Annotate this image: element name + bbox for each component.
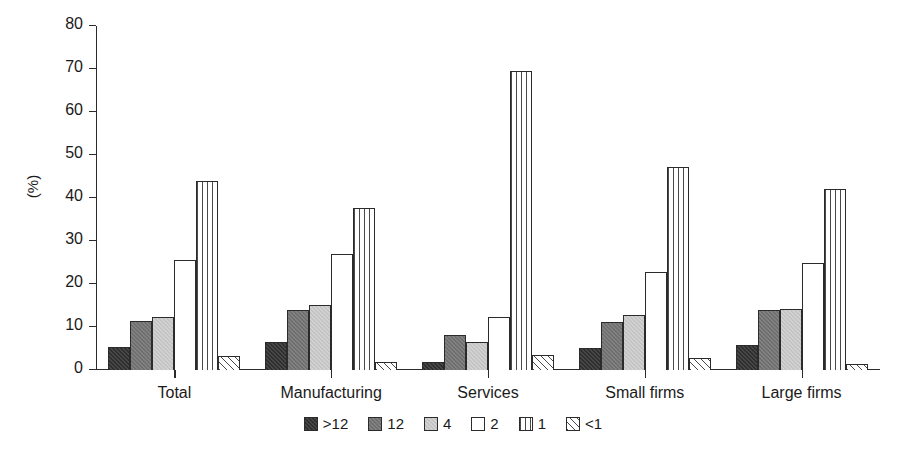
bar-2-manufacturing[interactable]: [331, 254, 353, 370]
bar-set: [410, 26, 567, 370]
x-tick: [331, 370, 332, 378]
y-tick-label: 20: [65, 273, 83, 291]
bar-1-large-firms[interactable]: [846, 364, 868, 370]
bar-1-large-firms[interactable]: [824, 189, 846, 370]
x-tick-label: Services: [410, 384, 567, 402]
bar-1-manufacturing[interactable]: [375, 362, 397, 370]
y-tick: 30: [89, 240, 96, 241]
x-tick-label: Total: [96, 384, 253, 402]
bar-4-services[interactable]: [466, 342, 488, 370]
bar-chart: (%) 01020304050607080 TotalManufacturing…: [0, 0, 906, 462]
legend-label: 12: [387, 415, 404, 432]
bar-set: [96, 26, 253, 370]
y-tick-label: 50: [65, 144, 83, 162]
y-tick: 0: [89, 369, 96, 370]
bar-groups: TotalManufacturingServicesSmall firmsLar…: [96, 26, 880, 370]
legend-swatch-icon: [471, 417, 485, 431]
legend-label: >12: [323, 415, 348, 432]
legend-label: 2: [490, 415, 498, 432]
bar-2-large-firms[interactable]: [802, 263, 824, 371]
bar-4-manufacturing[interactable]: [309, 305, 331, 370]
bar-12-large-firms[interactable]: [758, 310, 780, 370]
legend-item-4[interactable]: 4: [424, 415, 451, 432]
y-tick-label: 30: [65, 230, 83, 248]
x-tick: [488, 370, 489, 378]
bar-12-services[interactable]: [444, 335, 466, 370]
bar-1-small-firms[interactable]: [667, 167, 689, 370]
legend-swatch-icon: [566, 417, 580, 431]
legend-swatch-icon: [368, 417, 382, 431]
bar-group: Large firms: [723, 26, 880, 370]
bar-12-small-firms[interactable]: [579, 348, 601, 370]
legend-swatch-icon: [424, 417, 438, 431]
x-tick: [645, 370, 646, 378]
bar-1-total[interactable]: [196, 181, 218, 370]
bar-2-services[interactable]: [488, 317, 510, 370]
bar-1-small-firms[interactable]: [689, 358, 711, 370]
y-tick-label: 80: [65, 15, 83, 33]
y-tick-label: 0: [74, 359, 83, 377]
y-tick-label: 60: [65, 101, 83, 119]
x-tick-label: Manufacturing: [253, 384, 410, 402]
bar-1-manufacturing[interactable]: [353, 208, 375, 370]
x-tick-label: Small firms: [566, 384, 723, 402]
bar-group: Total: [96, 26, 253, 370]
legend-label: 4: [443, 415, 451, 432]
y-tick-label: 70: [65, 58, 83, 76]
legend-item-2[interactable]: 2: [471, 415, 498, 432]
bar-group: Small firms: [566, 26, 723, 370]
bar-4-total[interactable]: [152, 317, 174, 370]
bar-group: Manufacturing: [253, 26, 410, 370]
bar-12-total[interactable]: [108, 347, 130, 370]
bar-12-manufacturing[interactable]: [287, 310, 309, 370]
bar-set: [253, 26, 410, 370]
y-tick: 10: [89, 326, 96, 327]
legend-label: <1: [585, 415, 602, 432]
y-tick: 70: [89, 68, 96, 69]
bar-2-small-firms[interactable]: [645, 272, 667, 370]
y-tick: 60: [89, 111, 96, 112]
y-tick: 50: [89, 154, 96, 155]
legend-item-12[interactable]: 12: [368, 415, 404, 432]
bar-12-services[interactable]: [422, 362, 444, 370]
legend-item-1[interactable]: 1: [519, 415, 546, 432]
bar-1-services[interactable]: [532, 355, 554, 370]
bar-2-total[interactable]: [174, 260, 196, 370]
bar-4-large-firms[interactable]: [780, 309, 802, 370]
y-tick: 40: [89, 197, 96, 198]
bar-group: Services: [410, 26, 567, 370]
bar-1-services[interactable]: [510, 71, 532, 370]
y-tick: 80: [89, 25, 96, 26]
chart-legend: >1212421<1: [0, 415, 906, 432]
bar-12-total[interactable]: [130, 321, 152, 370]
y-axis-label: (%): [24, 167, 41, 207]
legend-swatch-icon: [519, 417, 533, 431]
legend-item-1[interactable]: <1: [566, 415, 602, 432]
bar-set: [566, 26, 723, 370]
x-tick: [802, 370, 803, 378]
x-tick: [174, 370, 175, 378]
bar-12-small-firms[interactable]: [601, 322, 623, 370]
bar-set: [723, 26, 880, 370]
y-tick-label: 40: [65, 187, 83, 205]
plot-area: 01020304050607080 TotalManufacturingServ…: [96, 26, 880, 370]
legend-label: 1: [538, 415, 546, 432]
y-tick-label: 10: [65, 316, 83, 334]
bar-12-manufacturing[interactable]: [265, 342, 287, 370]
y-tick: 20: [89, 283, 96, 284]
legend-item-12[interactable]: >12: [304, 415, 348, 432]
bar-1-total[interactable]: [218, 356, 240, 370]
legend-swatch-icon: [304, 417, 318, 431]
bar-4-small-firms[interactable]: [623, 315, 645, 370]
bar-12-large-firms[interactable]: [736, 345, 758, 370]
x-tick-label: Large firms: [723, 384, 880, 402]
